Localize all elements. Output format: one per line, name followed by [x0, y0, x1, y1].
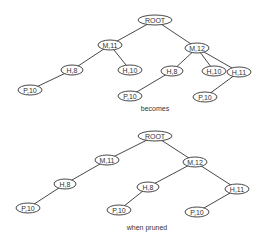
node-label: H,10 [123, 67, 138, 74]
node-h8a: H,8 [54, 179, 76, 189]
node-p10b: P,10 [107, 205, 131, 215]
node-p10b: P,10 [118, 91, 142, 101]
node-label: P,10 [198, 94, 212, 101]
node-label: H,10 [207, 68, 222, 75]
node-label: M,11 [99, 157, 114, 164]
becomes-caption: becomes [141, 105, 170, 112]
node-h8b: H,8 [137, 182, 159, 192]
node-label: H,11 [232, 69, 246, 76]
node-h11: H,11 [227, 67, 251, 77]
when-pruned-caption: when pruned [126, 224, 168, 232]
original-tree-edges [30, 20, 239, 97]
node-label: P,10 [112, 207, 126, 214]
node-label: M,12 [189, 45, 205, 52]
pruned-tree: ROOTM,11M,12H,8H,8H,11P,10P,10P,10 when … [16, 131, 249, 232]
node-root: ROOT [138, 15, 172, 25]
node-label: P,10 [21, 205, 35, 212]
node-m12: M,12 [183, 157, 207, 167]
node-label: P,10 [123, 93, 137, 100]
node-label: H,8 [60, 181, 71, 188]
node-label: H,8 [167, 68, 178, 75]
node-h8b: H,8 [161, 66, 183, 76]
original-tree: ROOTM,11M,12H,8H,10H,8H,10H,11P,10P,10P,… [18, 15, 251, 112]
node-m11: M,11 [95, 155, 119, 165]
node-p10a: P,10 [18, 85, 42, 95]
node-label: H,8 [67, 67, 78, 74]
node-label: ROOT [145, 17, 166, 24]
node-h10b: H,10 [202, 66, 226, 76]
node-m12: M,12 [185, 43, 209, 53]
node-p10c: P,10 [193, 92, 217, 102]
node-h11: H,11 [225, 184, 249, 194]
node-label: P,10 [190, 209, 204, 216]
tree-pruning-diagram: ROOTM,11M,12H,8H,10H,8H,10H,11P,10P,10P,… [0, 0, 265, 241]
node-m11: M,11 [98, 40, 122, 50]
node-p10a: P,10 [16, 203, 40, 213]
node-label: ROOT [145, 133, 166, 140]
node-label: H,8 [143, 184, 154, 191]
node-h10a: H,10 [118, 65, 142, 75]
pruned-tree-edges [28, 136, 237, 212]
node-label: H,11 [230, 186, 244, 193]
node-label: P,10 [23, 87, 37, 94]
node-label: M,11 [102, 42, 117, 49]
node-p10c: P,10 [185, 207, 209, 217]
node-label: M,12 [187, 159, 203, 166]
node-h8a: H,8 [61, 65, 83, 75]
node-root: ROOT [138, 131, 172, 141]
